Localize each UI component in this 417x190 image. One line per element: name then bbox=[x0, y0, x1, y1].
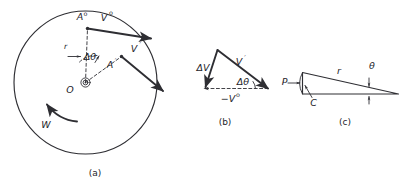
label-center-o: O bbox=[66, 84, 74, 95]
sliver-triangle bbox=[303, 73, 399, 95]
label-velocity-initial: V bbox=[101, 12, 109, 23]
panel-c: P C r θ (c) bbox=[282, 60, 399, 127]
label-point-a-initial-superscript: o bbox=[83, 10, 87, 18]
label-point-a-final: A bbox=[106, 59, 114, 70]
label-point-a-initial: A bbox=[76, 11, 84, 22]
caption-panel-b: (b) bbox=[219, 117, 232, 127]
caption-panel-a: (a) bbox=[89, 168, 102, 178]
panel-a: A o V o r Δθ A ′ V ′ O W (a) bbox=[14, 9, 163, 177]
label-neg-velocity-initial: −V bbox=[221, 93, 237, 104]
caption-panel-c: (c) bbox=[339, 117, 351, 127]
panel-b: ΔV V ′ Δθ −V o (b) bbox=[196, 50, 269, 127]
label-point-c: C bbox=[310, 97, 317, 108]
figure-root: A o V o r Δθ A ′ V ′ O W (a) ΔV V ′ Δθ bbox=[0, 0, 417, 190]
label-delta-theta-b: Δθ bbox=[236, 76, 249, 87]
label-delta-theta-a: Δθ bbox=[83, 51, 96, 62]
delta-theta-arc-b bbox=[253, 82, 256, 89]
label-velocity-final-b: V bbox=[236, 56, 244, 67]
label-radius-c: r bbox=[337, 65, 342, 76]
label-body-w: W bbox=[41, 119, 51, 130]
label-neg-velocity-initial-superscript: o bbox=[236, 91, 240, 99]
label-velocity-initial-superscript: o bbox=[109, 9, 113, 17]
label-radius-a: r bbox=[64, 42, 68, 51]
label-velocity-final-b-superscript: ′ bbox=[244, 54, 246, 62]
point-c-leader-arrow bbox=[305, 86, 312, 98]
label-velocity-final: V bbox=[131, 43, 139, 54]
velocity-initial-vector bbox=[88, 29, 152, 39]
label-delta-v: ΔV bbox=[196, 62, 211, 73]
label-theta-c: θ bbox=[369, 60, 375, 71]
rotation-direction-arrow bbox=[47, 105, 77, 122]
kinematics-figure: A o V o r Δθ A ′ V ′ O W (a) ΔV V ′ Δθ bbox=[0, 0, 417, 190]
label-velocity-final-superscript: ′ bbox=[139, 41, 141, 49]
label-point-a-final-superscript: ′ bbox=[115, 57, 117, 65]
label-point-p: P bbox=[282, 76, 288, 87]
